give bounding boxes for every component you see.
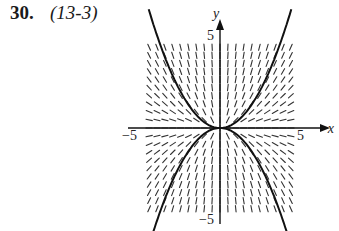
slope-segment — [265, 102, 270, 107]
slope-segment — [163, 174, 166, 180]
slope-segment — [154, 102, 159, 106]
slope-segment — [258, 60, 260, 66]
y-min-label: −5 — [199, 212, 214, 227]
slope-segment — [289, 77, 293, 82]
slope-segment — [171, 102, 176, 107]
slope-segment — [249, 142, 254, 147]
slope-segment — [155, 182, 158, 188]
slope-segment — [204, 52, 205, 58]
slope-segment — [154, 135, 160, 137]
slope-segment — [156, 52, 159, 58]
slope-segment — [195, 157, 197, 163]
slope-segment — [195, 101, 198, 107]
slope-segment — [212, 84, 213, 90]
slope-segment — [203, 101, 205, 107]
slope-segment — [235, 101, 237, 107]
slope-segment — [243, 77, 245, 83]
slope-segment — [282, 52, 285, 58]
slope-segment — [163, 182, 166, 188]
slope-segment — [204, 165, 205, 171]
slope-segment — [289, 198, 292, 204]
slope-segment — [266, 198, 268, 204]
slope-segment — [264, 135, 270, 137]
slope-segment — [273, 158, 277, 163]
slope-segment — [170, 135, 176, 137]
slope-segment — [195, 85, 197, 91]
slope-segment — [204, 198, 205, 204]
slope-segment — [251, 190, 253, 196]
slope-segment — [146, 143, 152, 146]
slope-segment — [188, 182, 190, 188]
slope-segment — [243, 190, 244, 196]
slope-segment — [162, 150, 167, 154]
slope-segment — [180, 190, 182, 196]
slope-segment — [188, 52, 189, 58]
slope-segment — [204, 173, 205, 179]
slope-segment — [146, 119, 152, 120]
slope-segment — [164, 44, 166, 50]
slope-segment — [280, 119, 286, 121]
slope-segment — [288, 111, 294, 114]
slope-segment — [178, 119, 184, 121]
slope-segment — [171, 158, 175, 163]
slope-segment — [156, 44, 158, 50]
slope-segment — [243, 44, 244, 50]
slope-segment — [282, 61, 285, 67]
slope-segment — [227, 109, 229, 115]
slope-segment — [188, 68, 190, 74]
slope-segment — [290, 44, 293, 50]
slope-segment — [226, 133, 229, 139]
slope-segment — [187, 158, 190, 164]
slope-segment — [272, 143, 278, 146]
slope-segment — [235, 44, 236, 50]
slope-segment — [154, 119, 160, 121]
slope-segment — [194, 118, 199, 122]
slope-segment — [281, 182, 284, 188]
slope-segment — [227, 141, 229, 147]
slope-segment — [204, 181, 205, 187]
slope-segment — [211, 117, 214, 123]
slope-segment — [235, 157, 237, 163]
slope-segment — [266, 60, 268, 66]
slope-segment — [242, 101, 245, 107]
slope-segment — [162, 110, 168, 113]
slope-segment — [154, 111, 160, 114]
slope-segment — [249, 110, 254, 115]
slope-segment — [288, 102, 293, 106]
slope-field-figure: y 5 x −5 5 −5 — [0, 0, 339, 231]
slope-segment — [155, 77, 159, 82]
slope-segment — [280, 150, 285, 154]
slope-segment — [178, 135, 184, 137]
slope-segment — [257, 110, 262, 114]
slope-segment — [204, 189, 205, 195]
slope-segment — [281, 166, 285, 171]
slope-segment — [195, 149, 198, 155]
slope-segment — [289, 190, 292, 196]
slope-segment — [228, 84, 229, 90]
slope-segment — [257, 150, 261, 155]
slope-segment — [180, 69, 182, 75]
slope-segment — [163, 166, 167, 171]
slope-segment — [188, 173, 190, 179]
slope-segment — [251, 182, 253, 188]
slope-segment — [243, 93, 245, 99]
slope-segment — [251, 77, 253, 83]
slope-segment — [274, 182, 277, 188]
slope-segment — [243, 52, 244, 58]
slope-segment — [251, 44, 252, 50]
slope-segment — [234, 141, 237, 147]
slope-segment — [250, 85, 252, 91]
slope-segment — [289, 166, 293, 171]
slope-segment — [259, 206, 261, 212]
slope-segment — [272, 135, 278, 137]
slope-segment — [289, 94, 294, 98]
slope-segment — [274, 206, 276, 212]
slope-segment — [250, 93, 253, 99]
slope-segment — [162, 102, 167, 106]
slope-segment — [180, 60, 182, 66]
slope-segment — [235, 206, 236, 212]
slope-segment — [186, 110, 191, 115]
slope-segment — [251, 52, 252, 58]
slope-segment — [264, 119, 270, 121]
slope-segment — [272, 119, 278, 121]
